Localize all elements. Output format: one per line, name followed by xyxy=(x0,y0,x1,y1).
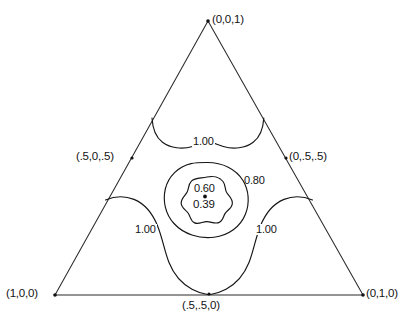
contour-label-bottom-right-1.00: 1.00 xyxy=(255,224,278,235)
left-midpoint-dot xyxy=(130,156,133,159)
contour-label-bottom-left-1.00: 1.00 xyxy=(134,224,157,235)
contour-label-top-1.00: 1.00 xyxy=(192,136,215,147)
vertex-label-bottom-right: (0,1,0) xyxy=(366,288,398,300)
bottom-left-dot xyxy=(53,293,57,297)
apex-dot xyxy=(206,19,210,23)
vertex-label-bottom-left: (1,0,0) xyxy=(6,288,38,300)
right-midpoint-dot xyxy=(284,156,287,159)
bottom-right-dot xyxy=(361,293,365,297)
minimum-value-label: 0.39 xyxy=(192,199,216,211)
ternary-plot-canvas xyxy=(0,0,416,329)
contour-path-1.00-bottom-right xyxy=(211,197,313,295)
ternary-contour-figure: (0,0,1) (1,0,0) (0,1,0) (.5,0,.5) (0,.5,… xyxy=(0,0,416,329)
vertex-label-apex: (0,0,1) xyxy=(212,14,244,26)
midpoint-label-bottom-edge: (.5,.5,0) xyxy=(182,300,220,312)
bottom-midpoint-dot xyxy=(207,292,210,295)
contour-label-0.80: 0.80 xyxy=(243,175,266,186)
midpoint-label-right-edge: (0,.5,.5) xyxy=(289,151,327,163)
contour-label-0.60: 0.60 xyxy=(193,183,216,194)
contour-path-1.00-bottom-left xyxy=(106,197,208,295)
midpoint-label-left-edge: (.5,0,.5) xyxy=(76,151,114,163)
